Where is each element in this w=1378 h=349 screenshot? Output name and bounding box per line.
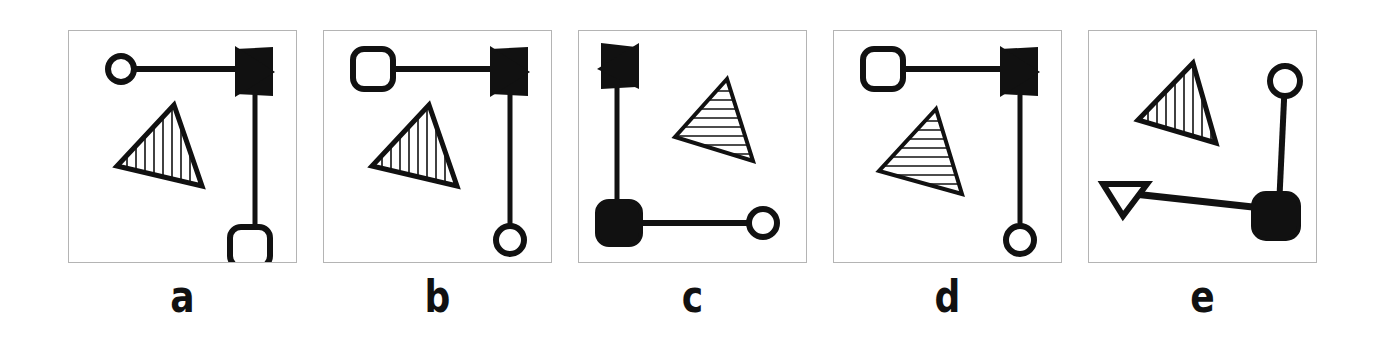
figure-panel-grid: a: [0, 0, 1378, 349]
open-circle-node: [749, 209, 777, 237]
panel-b: b: [323, 0, 552, 319]
panel-b-box: [323, 30, 552, 263]
panel-c: c: [578, 0, 807, 319]
filled-rounded-square-node: [1253, 193, 1299, 239]
panel-d: d: [833, 0, 1062, 319]
hatched-triangle-vertical: [117, 91, 202, 201]
panel-d-box: [833, 30, 1062, 263]
panel-a: a: [68, 0, 297, 319]
panel-e-box: [1088, 30, 1317, 263]
open-circle-node: [108, 56, 134, 82]
hatched-triangle-horizontal: [864, 109, 979, 194]
open-rounded-square-node: [863, 49, 903, 89]
hatched-triangle-horizontal: [659, 79, 769, 161]
hatched-triangle-vertical: [372, 91, 457, 201]
panel-a-box: [68, 30, 297, 263]
open-circle-node: [496, 226, 524, 254]
open-rounded-square-node: [353, 49, 393, 89]
panel-e-label: e: [1109, 275, 1297, 319]
open-circle-node: [1270, 66, 1300, 96]
panel-c-label: c: [599, 275, 787, 319]
filled-rounded-square-node: [597, 201, 641, 245]
panel-e: e: [1088, 0, 1317, 319]
connector-line-horizontal: [1125, 193, 1271, 209]
arrowhead-down-open-icon: [1103, 184, 1147, 216]
hatched-triangle-vertical: [1138, 51, 1216, 156]
panel-row: a: [0, 0, 1378, 349]
open-rounded-square-node: [230, 227, 270, 262]
panel-d-label: d: [854, 275, 1042, 319]
panel-c-box: [578, 30, 807, 263]
panel-b-label: b: [344, 275, 532, 319]
open-circle-node: [1006, 226, 1034, 254]
panel-a-label: a: [89, 275, 277, 319]
